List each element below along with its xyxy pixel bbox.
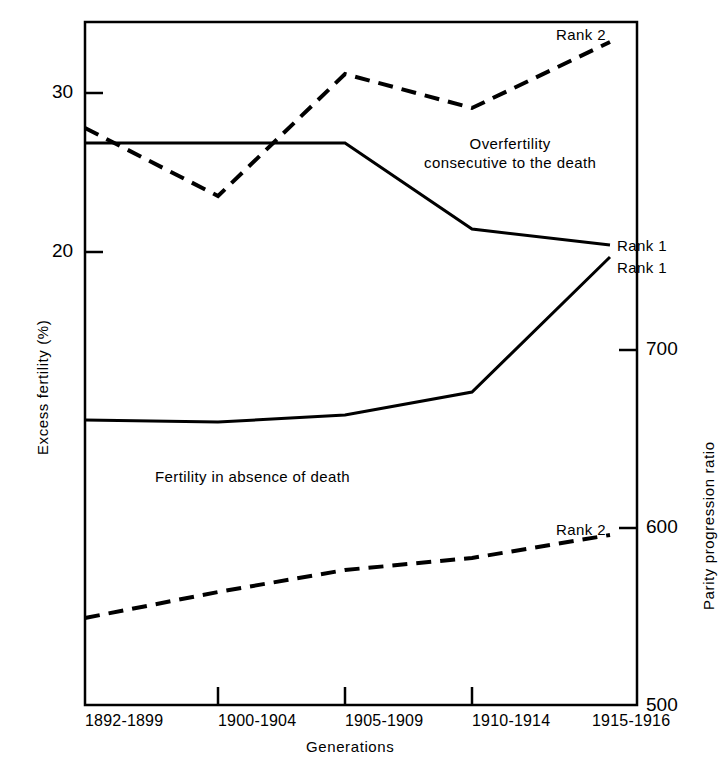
ytick-label-30: 30 bbox=[52, 81, 73, 103]
bottom-axis-ticks bbox=[218, 687, 472, 705]
y-axis-title-right: Parity progression ratio bbox=[700, 441, 717, 610]
series-label-rank2-top: Rank 2 bbox=[556, 26, 606, 43]
chart-figure: 30 20 700 600 500 1892-1899 1900-1904 19… bbox=[0, 0, 727, 774]
series-line-rank1-absence bbox=[85, 257, 610, 422]
series-line-rank2-absence bbox=[85, 535, 610, 618]
annotation-absence: Fertility in absence of death bbox=[155, 468, 350, 487]
series-label-rank2-bottom: Rank 2 bbox=[556, 521, 606, 538]
right-axis-ticks bbox=[619, 350, 637, 528]
left-axis-ticks bbox=[85, 93, 103, 252]
annotation-overfertility: Overfertility consecutive to the death bbox=[424, 135, 596, 173]
chart-plot-area bbox=[0, 0, 727, 774]
ytick-label-right-700: 700 bbox=[646, 338, 678, 360]
ytick-label-right-600: 600 bbox=[646, 516, 678, 538]
x-axis-title: Generations bbox=[306, 738, 394, 755]
series-label-rank1-lower: Rank 1 bbox=[617, 259, 667, 276]
annotation-overfertility-line2: consecutive to the death bbox=[424, 154, 596, 173]
series-line-rank2-overfertility bbox=[85, 42, 610, 196]
annotation-overfertility-line1: Overfertility bbox=[424, 135, 596, 154]
y-axis-title-left: Excess fertility (%) bbox=[34, 320, 51, 455]
series-label-rank1-upper: Rank 1 bbox=[617, 237, 667, 254]
ytick-label-20: 20 bbox=[52, 240, 73, 262]
